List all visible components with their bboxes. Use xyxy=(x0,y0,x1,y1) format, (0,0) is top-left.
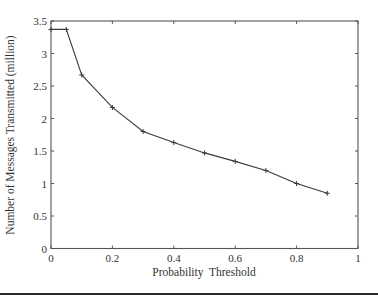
plus-marker-icon xyxy=(64,27,69,32)
plus-marker-icon xyxy=(49,27,54,32)
y-tick-label: 3.5 xyxy=(33,15,47,27)
plus-marker-icon xyxy=(202,150,207,155)
y-tick-label: 1 xyxy=(42,178,48,190)
x-axis-label: Probability Threshold xyxy=(152,266,256,279)
y-tick-label: 1.5 xyxy=(33,145,47,157)
x-tick-label: 0.2 xyxy=(106,252,120,264)
x-axis-ticks: 00.20.40.60.81 xyxy=(48,21,361,264)
y-tick-label: 2.5 xyxy=(33,80,47,92)
series-line xyxy=(51,29,327,193)
x-tick-label: 0 xyxy=(48,252,54,264)
y-tick-label: 0.5 xyxy=(33,210,47,222)
y-axis-ticks: 00.511.522.533.5 xyxy=(33,15,358,255)
line-chart: 00.20.40.60.81 00.511.522.533.5 Probabil… xyxy=(0,0,378,297)
y-axis-label: Number of Messages Transmitted (million) xyxy=(4,35,17,234)
y-tick-label: 3 xyxy=(42,48,48,60)
plus-marker-icon xyxy=(233,159,238,164)
y-tick-label: 0 xyxy=(42,243,48,255)
x-tick-label: 0.4 xyxy=(167,252,181,264)
x-tick-label: 1 xyxy=(355,252,361,264)
plus-marker-icon xyxy=(325,191,330,196)
plus-marker-icon xyxy=(171,140,176,145)
data-series xyxy=(49,27,330,196)
x-tick-label: 0.6 xyxy=(228,252,242,264)
plus-marker-icon xyxy=(263,168,268,173)
x-tick-label: 0.8 xyxy=(290,252,304,264)
page-divider-rule xyxy=(0,293,378,295)
y-tick-label: 2 xyxy=(42,113,48,125)
plot-area-border xyxy=(51,21,358,249)
plot-frame xyxy=(51,21,358,249)
plus-marker-icon xyxy=(294,181,299,186)
